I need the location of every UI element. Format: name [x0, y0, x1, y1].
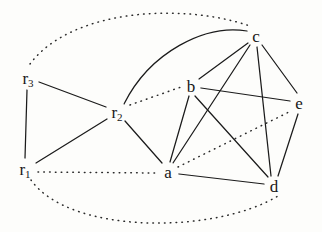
node-label-a[interactable]: a — [163, 164, 173, 181]
dotted-edge-r3-c — [30, 13, 250, 64]
solid-edge-r3-r2 — [39, 82, 106, 107]
node-label-r3[interactable]: r3 — [21, 70, 34, 87]
node-text-a: a — [164, 163, 172, 182]
dotted-edge-r1-d — [31, 180, 278, 223]
node-text-c: c — [252, 27, 260, 46]
solid-edge-r3-r1 — [25, 90, 27, 158]
graph-figure: r3 r2 r1 b c e a d — [0, 0, 322, 232]
solid-edge-c-d — [257, 47, 271, 176]
node-label-r2[interactable]: r2 — [110, 104, 123, 121]
node-text-b: b — [187, 77, 196, 96]
solid-edge-c-e — [262, 45, 297, 93]
solid-edge-group — [25, 30, 298, 184]
node-label-c[interactable]: c — [251, 28, 261, 45]
node-label-d[interactable]: d — [269, 178, 280, 195]
solid-edge-r1-r2 — [36, 119, 107, 163]
dotted-edge-r1-a — [38, 172, 157, 173]
dotted-edge-r2-b — [130, 87, 181, 105]
solid-edge-c-a — [173, 45, 250, 163]
node-label-e[interactable]: e — [294, 95, 304, 112]
solid-edge-a-d — [179, 174, 264, 184]
node-label-r1[interactable]: r1 — [18, 161, 31, 178]
solid-edge-b-d — [195, 96, 268, 177]
node-sub-r2: 2 — [117, 111, 123, 123]
solid-edge-r2-a — [125, 121, 162, 163]
node-text-e: e — [295, 94, 303, 113]
node-sub-r1: 1 — [25, 168, 31, 180]
node-label-b[interactable]: b — [186, 78, 197, 95]
node-text-d: d — [270, 177, 279, 196]
node-sub-r3: 3 — [28, 77, 34, 89]
node-text-r2: r — [111, 103, 117, 122]
solid-edge-c-b — [199, 43, 248, 79]
solid-edge-d-e — [278, 114, 298, 176]
graph-canvas — [0, 0, 322, 232]
node-text-r1: r — [19, 160, 25, 179]
node-text-r3: r — [22, 69, 28, 88]
